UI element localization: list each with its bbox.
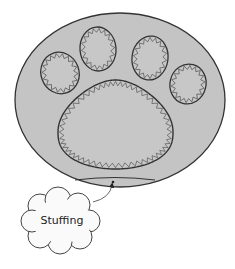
stuffing-label: Stuffing xyxy=(41,214,84,227)
diagram-artwork xyxy=(0,0,235,269)
paw-cushion-diagram: Stuffing xyxy=(0,0,235,269)
